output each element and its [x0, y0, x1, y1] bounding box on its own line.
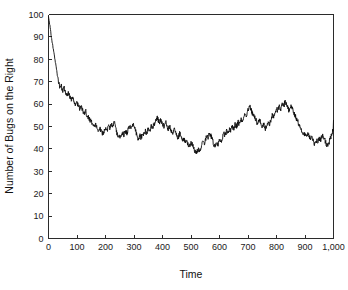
x-axis-title: Time	[180, 268, 203, 280]
x-tick-label: 1,000	[322, 242, 345, 252]
y-axis-tick-labels: 0102030405060708090100	[28, 10, 43, 244]
x-tick-label: 600	[212, 242, 227, 252]
x-tick-label: 700	[240, 242, 255, 252]
x-tick-label: 200	[98, 242, 113, 252]
y-tick-label: 10	[33, 211, 43, 221]
x-tick-label: 400	[155, 242, 170, 252]
y-tick-label: 70	[33, 77, 43, 87]
y-tick-label: 0	[38, 234, 43, 244]
x-tick-label: 800	[269, 242, 284, 252]
x-tick-label: 0	[46, 242, 51, 252]
y-tick-label: 100	[28, 10, 43, 20]
x-tick-label: 300	[126, 242, 141, 252]
y-tick-label: 30	[33, 167, 43, 177]
x-tick-label: 100	[69, 242, 84, 252]
y-axis-ticks	[49, 15, 53, 239]
axes	[49, 15, 334, 239]
x-axis-ticks	[49, 235, 334, 239]
data-series-line	[49, 17, 334, 154]
x-tick-label: 500	[183, 242, 198, 252]
chart-figure: 01002003004005006007008009001,000 010203…	[0, 0, 348, 290]
y-axis-title: Number of Bugs on the Right	[3, 58, 15, 193]
y-tick-label: 60	[33, 99, 43, 109]
x-tick-label: 900	[297, 242, 312, 252]
x-axis-tick-labels: 01002003004005006007008009001,000	[46, 242, 345, 252]
y-tick-label: 20	[33, 189, 43, 199]
y-tick-label: 80	[33, 55, 43, 65]
y-tick-label: 50	[33, 122, 43, 132]
y-tick-label: 40	[33, 144, 43, 154]
chart-canvas: 01002003004005006007008009001,000 010203…	[0, 0, 348, 290]
y-tick-label: 90	[33, 32, 43, 42]
